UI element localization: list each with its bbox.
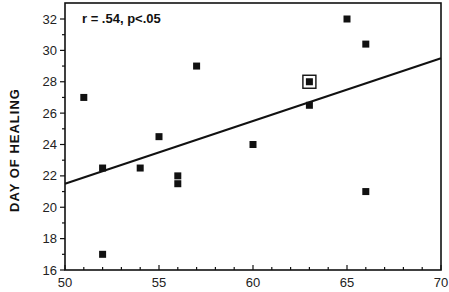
x-axis-ticks: 5055606570: [58, 265, 448, 290]
y-tick-label: 26: [43, 106, 57, 121]
scatter-chart: 161820222426283032 5055606570 r = .54, p…: [0, 0, 449, 292]
data-point: [250, 141, 257, 148]
data-point: [99, 251, 106, 258]
data-point: [344, 16, 351, 23]
fit-line: [65, 58, 441, 184]
y-tick-label: 30: [43, 43, 57, 58]
plot-border: [65, 3, 441, 270]
x-tick-label: 65: [340, 275, 354, 290]
y-tick-label: 22: [43, 168, 57, 183]
plot-frame: [65, 3, 441, 270]
y-axis-ticks: 161820222426283032: [43, 12, 65, 278]
y-tick-label: 32: [43, 12, 57, 27]
y-axis-title: DAY OF HEALING: [7, 88, 22, 212]
y-tick-label: 24: [43, 137, 57, 152]
data-points: [80, 16, 369, 258]
data-point: [99, 165, 106, 172]
y-tick-label: 20: [43, 200, 57, 215]
data-point: [362, 41, 369, 48]
x-tick-label: 70: [434, 275, 448, 290]
data-point: [306, 78, 313, 85]
correlation-annotation: r = .54, p<.05: [82, 11, 161, 26]
data-point: [306, 102, 313, 109]
data-point: [156, 133, 163, 140]
x-tick-label: 50: [58, 275, 72, 290]
x-tick-label: 60: [246, 275, 260, 290]
data-point: [137, 165, 144, 172]
data-point: [174, 180, 181, 187]
data-point: [174, 172, 181, 179]
y-tick-label: 16: [43, 263, 57, 278]
data-point: [362, 188, 369, 195]
data-point: [193, 63, 200, 70]
regression-line: [65, 58, 441, 184]
y-tick-label: 18: [43, 231, 57, 246]
x-tick-label: 55: [152, 275, 166, 290]
data-point: [80, 94, 87, 101]
y-tick-label: 28: [43, 74, 57, 89]
